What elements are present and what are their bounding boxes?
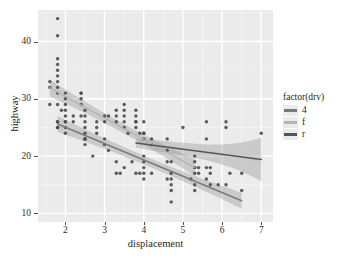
x-tick-label: 6 — [210, 225, 234, 235]
plot-panel — [38, 10, 273, 222]
legend-item-f: f — [283, 117, 339, 128]
x-tick-mark — [261, 222, 262, 225]
legend-key-swatch — [283, 117, 298, 128]
legend-key-swatch — [283, 129, 298, 140]
legend-label: 4 — [302, 105, 307, 116]
x-tick-mark — [65, 222, 66, 225]
axis-title-y: highway — [9, 74, 20, 154]
x-tick-mark — [222, 222, 223, 225]
x-tick-label: 4 — [132, 225, 156, 235]
legend-item-4: 4 — [283, 105, 339, 116]
x-tick-label: 7 — [249, 225, 273, 235]
x-tick-label: 2 — [53, 225, 77, 235]
legend-entries: 4fr — [283, 105, 339, 140]
legend-label: f — [302, 117, 305, 128]
axis-title-x: displacement — [38, 238, 273, 249]
y-tick-label: 10 — [8, 208, 31, 218]
x-tick-mark — [105, 222, 106, 225]
x-tick-mark — [144, 222, 145, 225]
legend-label: r — [302, 129, 305, 140]
x-tick-label: 3 — [93, 225, 117, 235]
legend-title: factor(drv) — [283, 92, 339, 102]
legend-item-r: r — [283, 129, 339, 140]
legend: factor(drv) 4fr — [283, 92, 339, 141]
y-tick-label: 40 — [8, 36, 31, 46]
x-tick-label: 5 — [171, 225, 195, 235]
legend-key-swatch — [283, 105, 298, 116]
x-tick-mark — [183, 222, 184, 225]
chart-root: 10203040 234567 displacement highway fac… — [0, 0, 341, 265]
plot-canvas — [38, 10, 273, 222]
